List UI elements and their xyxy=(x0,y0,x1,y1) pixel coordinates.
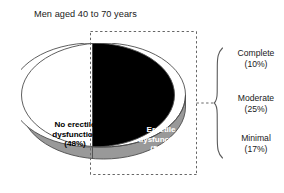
severity-percent-minimal: (17%) xyxy=(228,144,284,155)
pie-chart: No erectile dysfunction (48%) Erectile d… xyxy=(21,43,186,161)
page-title: Men aged 40 to 70 years xyxy=(34,8,164,20)
severity-name-minimal: Minimal xyxy=(228,133,284,144)
severity-label-moderate: Moderate (25%) xyxy=(228,93,284,115)
severity-label-complete: Complete (10%) xyxy=(228,48,284,70)
pie-label-ed-name: Erectile dysfunction xyxy=(138,125,183,144)
pie-label-ed-percent: (52%) xyxy=(150,144,171,153)
severity-label-minimal: Minimal (17%) xyxy=(228,133,284,155)
pie-label-no-ed-name: No erectile dysfunction xyxy=(52,120,97,139)
pie-chart-figure: Men aged 40 to 70 years No erectile dysf… xyxy=(0,0,284,193)
pie-label-erectile-dysfunction: Erectile dysfunction (52%) xyxy=(131,125,191,154)
severity-brace-icon xyxy=(214,48,222,158)
severity-percent-moderate: (25%) xyxy=(228,104,284,115)
severity-name-moderate: Moderate xyxy=(228,93,284,104)
pie-label-no-ed-percent: (48%) xyxy=(64,139,85,148)
pie-label-no-erectile-dysfunction: No erectile dysfunction (48%) xyxy=(45,120,105,149)
severity-percent-complete: (10%) xyxy=(228,59,284,70)
severity-name-complete: Complete xyxy=(228,48,284,59)
